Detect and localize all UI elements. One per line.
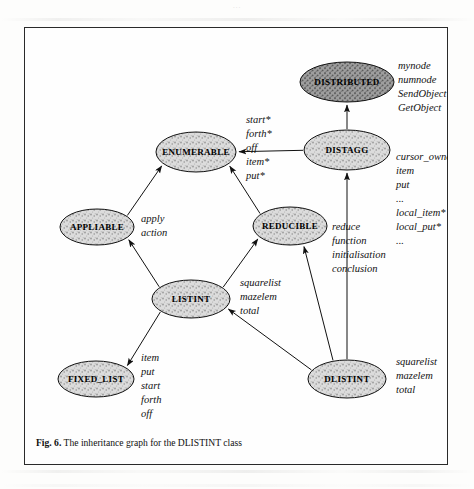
feature-distributed-2: SendObject [398, 88, 447, 99]
scan-artifact-footer [0, 484, 474, 487]
edge-appliable-to-enumerable [127, 166, 161, 216]
feature-appliable-0: apply [141, 213, 165, 224]
feature-reducible-1: function [332, 235, 366, 246]
feature-fixed_list-2: start [141, 380, 161, 391]
feature-listint-2: total [240, 305, 259, 316]
node-appliable[interactable]: APPLIABLE [60, 209, 134, 245]
running-head: ... [0, 2, 474, 10]
feature-distributed-3: GetObject [398, 102, 442, 113]
node-label-distributed: DISTRIBUTED [314, 77, 380, 87]
caption-text: The inheritance graph for the DLISTINT c… [64, 437, 242, 448]
node-distributed[interactable]: DISTRIBUTED [300, 62, 394, 102]
feature-distagg-3: ... [396, 193, 404, 204]
feature-listint-0: squarelist [240, 277, 282, 288]
feature-appliable-1: action [141, 227, 167, 238]
feature-distagg-6: ... [396, 235, 404, 246]
feature-reducible-0: reduce [332, 221, 361, 232]
feature-listint-1: mazelem [240, 291, 277, 302]
node-label-enumerable: ENUMERABLE [162, 147, 230, 157]
feature-reducible-2: initialisation [332, 249, 386, 260]
node-reducible[interactable]: REDUCIBLE [253, 207, 327, 245]
node-label-dlistint: DLISTINT [324, 374, 369, 384]
feature-reducible-3: conclusion [332, 263, 378, 274]
scanned-page: ... DISTRIBUTEDDISTAGGENUMERAB [0, 0, 474, 489]
node-label-reducible: REDUCIBLE [262, 221, 318, 231]
node-label-distagg: DISTAGG [326, 145, 369, 155]
node-label-appliable: APPLIABLE [70, 222, 124, 232]
edge-listint-to-appliable [129, 240, 159, 287]
feature-fixed_list-0: item [141, 352, 159, 363]
feature-fixed_list-1: put [140, 366, 156, 377]
figure-caption: Fig. 6. The inheritance graph for the DL… [36, 437, 242, 448]
node-fixed_list[interactable]: FIXED_LIST [58, 361, 134, 397]
feature-enumerable-4: put* [245, 170, 265, 181]
inheritance-graph: DISTRIBUTEDDISTAGGENUMERABLEAPPLIABLERED… [24, 27, 448, 465]
feature-fixed_list-4: off [141, 408, 154, 419]
feature-enumerable-3: item* [246, 156, 270, 167]
feature-dlistint-1: mazelem [396, 370, 433, 381]
edge-dlistint-to-listint [228, 309, 311, 370]
feature-distagg-2: put [395, 179, 411, 190]
feature-dlistint-0: squarelist [396, 356, 438, 367]
feature-distagg-5: local_put* [396, 221, 442, 232]
feature-distagg-1: item [396, 165, 414, 176]
node-label-listint: LISTINT [172, 294, 211, 304]
node-label-fixed_list: FIXED_LIST [68, 374, 124, 384]
scan-artifact-top [0, 18, 474, 21]
feature-dlistint-2: total [396, 384, 415, 395]
feature-fixed_list-3: forth [141, 394, 161, 405]
feature-distributed-1: numnode [398, 74, 437, 85]
scan-artifact-bottom [0, 470, 474, 473]
node-dlistint[interactable]: DLISTINT [308, 360, 386, 398]
caption-prefix: Fig. 6. [36, 437, 61, 448]
feature-enumerable-1: forth* [246, 128, 272, 139]
feature-distributed-0: mynode [398, 60, 431, 71]
edge-dlistint-to-reducible [304, 247, 333, 361]
feature-distagg-0: cursor_owner [396, 151, 448, 162]
feature-distagg-4: local_item* [396, 207, 446, 218]
node-listint[interactable]: LISTINT [152, 280, 230, 318]
feature-enumerable-0: start* [246, 114, 271, 125]
node-enumerable[interactable]: ENUMERABLE [156, 132, 236, 172]
node-distagg[interactable]: DISTAGG [304, 130, 390, 170]
